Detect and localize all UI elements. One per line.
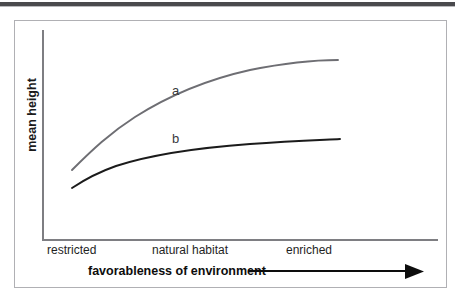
x-tick-label-enriched: enriched (286, 243, 332, 257)
y-axis-title: mean height (25, 55, 39, 175)
top-divider-shadow (0, 6, 455, 7)
series-label-b: b (172, 131, 179, 146)
y-axis-line (42, 30, 44, 241)
figure-page: mean height a b restricted natural habit… (0, 0, 455, 305)
x-tick-label-restricted: restricted (47, 243, 96, 257)
x-axis-title: favorableness of environment (88, 264, 266, 278)
x-axis-line (42, 239, 438, 241)
x-tick-label-natural-habitat: natural habitat (152, 243, 228, 257)
series-label-a: a (172, 83, 179, 98)
